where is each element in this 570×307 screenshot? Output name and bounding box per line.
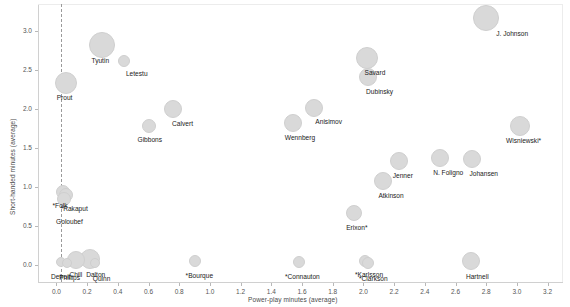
data-point-bubble[interactable] bbox=[346, 205, 362, 221]
x-tickmark bbox=[271, 283, 272, 286]
y-tickmark bbox=[35, 187, 38, 188]
x-tick-label: 2.0 bbox=[351, 288, 375, 295]
data-point-bubble[interactable] bbox=[356, 47, 378, 69]
x-tick-label: 3.0 bbox=[505, 288, 529, 295]
vertical-reference-line bbox=[61, 4, 62, 282]
y-tickmark bbox=[35, 109, 38, 110]
data-point-label: J. Johnson bbox=[496, 30, 528, 37]
x-tickmark bbox=[363, 283, 364, 286]
data-point-bubble[interactable] bbox=[390, 152, 408, 170]
y-tickmark bbox=[35, 265, 38, 266]
y-tickmark bbox=[35, 226, 38, 227]
data-point-bubble[interactable] bbox=[362, 257, 374, 269]
data-point-label: Gibbons bbox=[138, 136, 163, 143]
data-point-label: Dubinsky bbox=[366, 88, 393, 95]
x-tick-label: 1.0 bbox=[198, 288, 222, 295]
data-point-bubble[interactable] bbox=[431, 149, 449, 167]
data-point-label: Phillips bbox=[59, 274, 80, 281]
x-tick-label: 3.2 bbox=[536, 288, 560, 295]
x-tickmark bbox=[394, 283, 395, 286]
data-point-label: Prout bbox=[57, 94, 73, 101]
data-point-bubble[interactable] bbox=[62, 258, 72, 268]
x-axis-title: Power-play minutes (average) bbox=[248, 296, 338, 303]
data-point-label: Atkinson bbox=[378, 192, 403, 199]
x-tickmark bbox=[179, 283, 180, 286]
data-point-label: Calvert bbox=[172, 120, 193, 127]
data-point-label: Wisniewski* bbox=[506, 137, 541, 144]
x-tick-label: 0.6 bbox=[137, 288, 161, 295]
y-tickmark bbox=[35, 70, 38, 71]
data-point-bubble[interactable] bbox=[473, 5, 499, 31]
data-point-label: Letestu bbox=[126, 70, 148, 77]
x-tick-label: 0.8 bbox=[167, 288, 191, 295]
data-point-bubble[interactable] bbox=[305, 99, 323, 117]
x-tick-label: 0.2 bbox=[75, 288, 99, 295]
data-point-bubble[interactable] bbox=[374, 172, 392, 190]
data-point-label: N. Foligno bbox=[433, 169, 463, 176]
x-tick-label: 2.6 bbox=[444, 288, 468, 295]
y-tickmark bbox=[35, 148, 38, 149]
y-tick-label: 2.5 bbox=[10, 66, 32, 73]
data-point-bubble[interactable] bbox=[293, 256, 305, 268]
data-point-bubble[interactable] bbox=[118, 55, 130, 67]
y-tick-label: 2.0 bbox=[10, 105, 32, 112]
data-point-label: *Bourque bbox=[186, 272, 214, 279]
data-point-label: Tyutin bbox=[91, 57, 109, 64]
x-tickmark bbox=[302, 283, 303, 286]
data-point-label: *Rakaput bbox=[61, 205, 88, 212]
data-point-label: Jenner bbox=[393, 172, 413, 179]
x-tickmark bbox=[425, 283, 426, 286]
x-tickmark bbox=[517, 283, 518, 286]
x-tickmark bbox=[456, 283, 457, 286]
x-tick-label: 2.8 bbox=[474, 288, 498, 295]
y-tick-label: 1.5 bbox=[10, 144, 32, 151]
y-axis-title: Short-handed minutes (average) bbox=[9, 118, 16, 215]
x-tickmark bbox=[210, 283, 211, 286]
data-point-label: Hartnell bbox=[466, 273, 489, 280]
data-point-label: Quinn bbox=[93, 275, 111, 282]
y-tick-label: 3.0 bbox=[10, 27, 32, 34]
data-point-bubble[interactable] bbox=[90, 258, 100, 268]
x-tick-label: 1.8 bbox=[321, 288, 345, 295]
x-tick-label: 0.4 bbox=[106, 288, 130, 295]
data-point-label: Savard bbox=[365, 69, 386, 76]
y-axis-line bbox=[38, 4, 39, 282]
x-tick-label: 0.0 bbox=[44, 288, 68, 295]
x-axis-line bbox=[38, 282, 563, 283]
data-point-label: Wennberg bbox=[285, 134, 315, 141]
data-point-label: Anisimov bbox=[315, 118, 342, 125]
data-point-label: Goloubef bbox=[56, 218, 83, 225]
y-tick-label: 0.0 bbox=[10, 261, 32, 268]
x-tickmark bbox=[486, 283, 487, 286]
x-tickmark bbox=[56, 283, 57, 286]
data-point-label: *Clarkson bbox=[359, 275, 388, 282]
x-tickmark bbox=[149, 283, 150, 286]
scatter-plot: Short-handed minutes (average) Power-pla… bbox=[0, 0, 570, 307]
data-point-bubble[interactable] bbox=[142, 119, 156, 133]
data-point-bubble[interactable] bbox=[510, 116, 530, 136]
x-tick-label: 2.4 bbox=[413, 288, 437, 295]
x-tickmark bbox=[87, 283, 88, 286]
data-point-bubble[interactable] bbox=[55, 72, 77, 94]
data-point-bubble[interactable] bbox=[462, 252, 480, 270]
data-point-bubble[interactable] bbox=[189, 255, 201, 267]
x-tickmark bbox=[118, 283, 119, 286]
x-tick-label: 1.2 bbox=[229, 288, 253, 295]
data-point-bubble[interactable] bbox=[463, 150, 481, 168]
plot-frame-right bbox=[562, 4, 563, 282]
x-tick-label: 1.4 bbox=[259, 288, 283, 295]
y-tickmark bbox=[35, 31, 38, 32]
x-tickmark bbox=[548, 283, 549, 286]
x-tickmark bbox=[241, 283, 242, 286]
data-point-label: *Connauton bbox=[285, 273, 320, 280]
data-point-label: Johansen bbox=[469, 170, 498, 177]
x-tick-label: 1.6 bbox=[290, 288, 314, 295]
x-tickmark bbox=[333, 283, 334, 286]
data-point-bubble[interactable] bbox=[284, 114, 302, 132]
data-point-bubble[interactable] bbox=[89, 32, 115, 58]
data-point-label: Erixon* bbox=[346, 224, 367, 231]
y-tick-label: 0.5 bbox=[10, 222, 32, 229]
x-tick-label: 2.2 bbox=[382, 288, 406, 295]
y-tick-label: 1.0 bbox=[10, 183, 32, 190]
data-point-bubble[interactable] bbox=[164, 100, 182, 118]
